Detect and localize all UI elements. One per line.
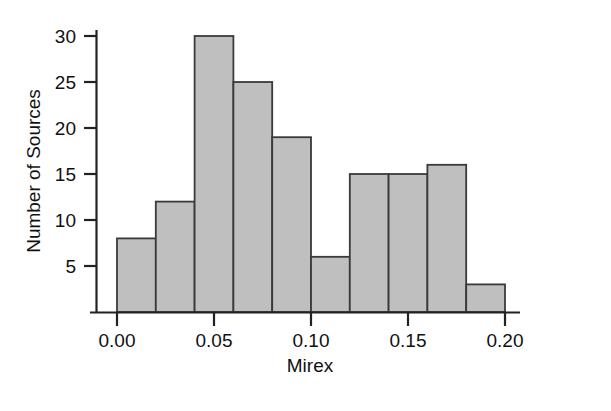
histogram-bar xyxy=(466,284,505,312)
x-axis-title: Mirex xyxy=(287,355,334,376)
x-axis-tick-label: 0.10 xyxy=(293,330,330,351)
y-axis-tick-label: 20 xyxy=(55,118,76,139)
y-axis-tick-label: 10 xyxy=(55,210,76,231)
x-axis-tick-label: 0.00 xyxy=(99,330,136,351)
y-axis-tick-label: 5 xyxy=(65,256,76,277)
histogram-bar xyxy=(427,165,466,312)
histogram-bar xyxy=(195,36,234,312)
x-axis-tick-label: 0.20 xyxy=(487,330,524,351)
x-axis-tick-label: 0.05 xyxy=(196,330,233,351)
y-axis-tick-label: 25 xyxy=(55,72,76,93)
histogram-chart: 51015202530 0.000.050.100.150.20 Number … xyxy=(0,0,611,411)
histogram-bar xyxy=(272,137,311,312)
histogram-bar xyxy=(117,238,156,312)
histogram-bar xyxy=(389,174,428,312)
histogram-bar xyxy=(311,257,350,312)
y-axis-tick-label: 30 xyxy=(55,26,76,47)
y-axis-tick-label: 15 xyxy=(55,164,76,185)
histogram-bar xyxy=(233,82,272,312)
histogram-figure: 51015202530 0.000.050.100.150.20 Number … xyxy=(0,0,611,411)
y-axis-title: Number of Sources xyxy=(23,89,44,253)
x-axis-tick-label: 0.15 xyxy=(390,330,427,351)
histogram-bar xyxy=(156,202,195,312)
histogram-bar xyxy=(350,174,389,312)
